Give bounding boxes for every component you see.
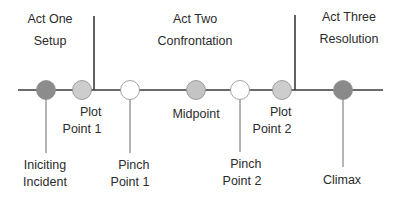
act-three-subtitle: Resolution	[319, 31, 378, 48]
pinch-point-1-label: Pinch Point 1	[111, 157, 150, 191]
plot-point-1-line1: Plot	[63, 104, 102, 121]
plot-point-2-line2: Point 2	[253, 121, 292, 138]
pinch-point-2-line2: Point 2	[223, 173, 262, 190]
inciting-incident-line2: Incident	[23, 174, 67, 191]
pinch-point-1-line1: Pinch	[111, 157, 150, 174]
act-one-title: Act One	[27, 11, 72, 28]
node-pinch-point-2	[231, 81, 250, 100]
node-plot-point-2	[273, 81, 292, 100]
midpoint-label: Midpoint	[172, 106, 219, 123]
plot-point-1-label: Plot Point 1	[63, 104, 102, 138]
climax-line1: Climax	[323, 172, 361, 189]
node-climax	[334, 81, 353, 100]
act-three-label: Act Three Resolution	[319, 9, 378, 48]
pinch-point-2-line1: Pinch	[223, 156, 262, 173]
node-inciting-incident	[37, 81, 56, 100]
inciting-incident-label: Iniciting Incident	[23, 157, 67, 191]
inciting-incident-line1: Iniciting	[23, 157, 67, 174]
act-two-label: Act Two Confrontation	[157, 11, 232, 50]
plot-point-1-line2: Point 1	[63, 121, 102, 138]
node-plot-point-1	[73, 81, 92, 100]
plot-point-2-label: Plot Point 2	[253, 104, 292, 138]
act-one-subtitle: Setup	[27, 33, 72, 50]
midpoint-line1: Midpoint	[172, 106, 219, 123]
act-one-label: Act One Setup	[27, 11, 72, 50]
pinch-point-2-label: Pinch Point 2	[223, 156, 262, 190]
node-pinch-point-1	[121, 81, 140, 100]
act-three-title: Act Three	[319, 9, 378, 26]
node-midpoint	[187, 81, 206, 100]
act-two-title: Act Two	[157, 11, 232, 28]
climax-label: Climax	[323, 172, 361, 189]
plot-point-2-line1: Plot	[253, 104, 292, 121]
pinch-point-1-line2: Point 1	[111, 174, 150, 191]
act-two-subtitle: Confrontation	[157, 33, 232, 50]
